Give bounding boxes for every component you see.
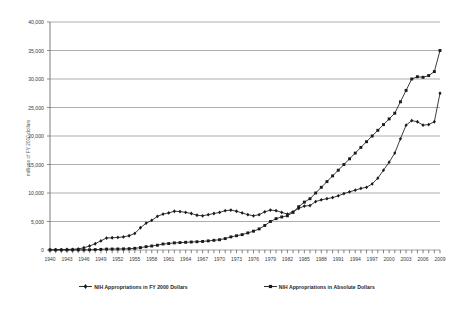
y-axis-tick-label: 0	[10, 247, 44, 253]
data-point-marker	[269, 220, 272, 223]
x-axis-tick-label: 1973	[231, 256, 242, 262]
data-point-marker	[60, 249, 63, 252]
y-axis-tick-label: 15,000	[10, 162, 44, 168]
data-point-marker	[371, 135, 374, 138]
data-point-marker	[179, 241, 182, 244]
data-point-marker	[167, 242, 170, 245]
data-point-marker	[88, 244, 91, 248]
data-point-marker	[252, 230, 255, 233]
data-point-marker	[156, 214, 159, 218]
x-axis-tick-label: 1991	[333, 256, 344, 262]
y-axis-tick-label: 10,000	[10, 190, 44, 196]
data-point-marker	[229, 208, 232, 212]
x-axis-tick-label: 2003	[401, 256, 412, 262]
data-point-marker	[122, 247, 125, 250]
x-axis-tick-label: 1982	[282, 256, 293, 262]
x-axis-tick-label: 2000	[384, 256, 395, 262]
y-axis-tick-label: 5,000	[10, 219, 44, 225]
y-axis-tick-label: 20,000	[10, 133, 44, 139]
data-point-marker	[150, 245, 153, 248]
data-point-marker	[269, 208, 272, 212]
data-point-marker	[275, 209, 278, 213]
data-point-marker	[438, 91, 441, 95]
data-point-marker	[399, 137, 402, 141]
x-axis-tick-label: 1949	[95, 256, 106, 262]
data-point-marker	[388, 117, 391, 120]
data-point-marker	[167, 211, 170, 215]
data-point-marker	[111, 248, 114, 251]
data-point-marker	[427, 74, 430, 77]
data-point-marker	[218, 210, 221, 214]
chart-legend: NIH Appropriations in FY 2000 Dollars NI…	[0, 283, 454, 290]
data-point-marker	[337, 194, 340, 198]
data-point-marker	[196, 240, 199, 243]
data-point-marker	[77, 249, 80, 252]
data-point-marker	[71, 249, 74, 252]
data-point-marker	[422, 76, 425, 79]
data-point-marker	[49, 249, 52, 252]
y-axis-tick-label: 30,000	[10, 76, 44, 82]
data-point-marker	[263, 210, 266, 214]
data-point-marker	[331, 196, 334, 200]
data-point-marker	[258, 213, 261, 217]
y-axis-tick-label: 40,000	[10, 19, 44, 25]
series-line-0	[50, 93, 440, 250]
data-point-marker	[111, 236, 114, 240]
data-point-marker	[133, 247, 136, 250]
x-axis-tick-label: 2006	[417, 256, 428, 262]
data-point-marker	[235, 234, 238, 237]
data-point-marker	[229, 235, 232, 238]
data-point-marker	[314, 200, 317, 204]
data-point-marker	[122, 235, 125, 239]
data-point-marker	[190, 241, 193, 244]
data-point-marker	[308, 204, 311, 208]
data-point-marker	[94, 248, 97, 251]
data-point-marker	[224, 209, 227, 213]
data-point-marker	[178, 210, 181, 214]
x-axis-tick-label: 1940	[44, 256, 55, 262]
data-point-marker	[241, 211, 244, 215]
legend-entry-fy2000[interactable]: NIH Appropriations in FY 2000 Dollars	[79, 283, 188, 290]
data-point-marker	[184, 210, 187, 214]
x-axis-tick-label: 1985	[299, 256, 310, 262]
data-point-marker	[416, 75, 419, 78]
data-point-marker	[105, 248, 108, 251]
data-point-marker	[331, 174, 334, 177]
data-point-marker	[280, 210, 283, 214]
data-point-marker	[427, 123, 430, 127]
y-axis-tick-label: 25,000	[10, 105, 44, 111]
x-axis-tick-label: 1964	[180, 256, 191, 262]
data-point-marker	[297, 205, 300, 208]
data-point-marker	[201, 214, 204, 218]
data-point-marker	[105, 236, 108, 240]
data-point-marker	[212, 212, 215, 216]
data-point-marker	[421, 123, 424, 127]
data-point-marker	[309, 197, 312, 200]
data-point-marker	[207, 213, 210, 217]
legend-label-fy2000: NIH Appropriations in FY 2000 Dollars	[94, 284, 188, 290]
data-point-marker	[354, 152, 357, 155]
data-point-marker	[337, 169, 340, 172]
series-line-1	[50, 51, 440, 251]
data-point-marker	[354, 188, 357, 192]
data-point-marker	[393, 112, 396, 115]
data-point-marker	[162, 243, 165, 246]
x-axis-tick-label: 1961	[163, 256, 174, 262]
data-point-marker	[275, 217, 278, 220]
y-axis-tick-label: 35,000	[10, 48, 44, 54]
data-point-marker	[190, 212, 193, 216]
data-point-marker	[116, 248, 119, 251]
data-point-marker	[207, 239, 210, 242]
data-point-marker	[128, 234, 131, 238]
data-point-marker	[359, 146, 362, 149]
data-point-marker	[145, 245, 148, 248]
legend-entry-absolute[interactable]: NIH Appropriations in Absolute Dollars	[264, 283, 375, 290]
data-point-marker	[405, 89, 408, 92]
data-point-marker	[88, 248, 91, 251]
data-point-marker	[54, 249, 57, 252]
x-axis-tick-label: 1979	[265, 256, 276, 262]
data-point-marker	[342, 192, 345, 196]
data-point-marker	[224, 237, 227, 240]
x-axis-tick-label: 1988	[316, 256, 327, 262]
data-point-marker	[218, 238, 221, 241]
